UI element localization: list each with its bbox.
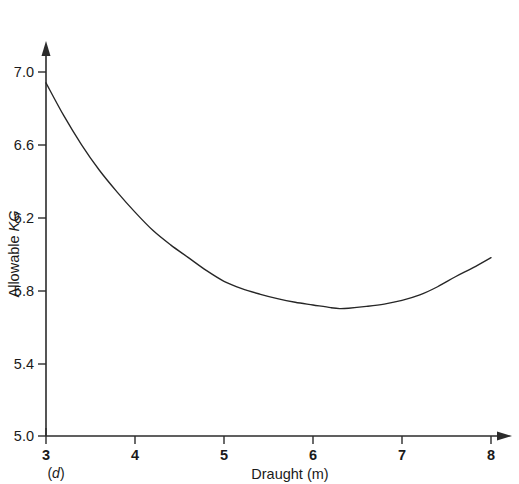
y-tick-label: 5.4 (14, 356, 34, 372)
y-axis-title-prefix: Allowable (6, 231, 22, 297)
x-axis-title: Draught (m) (251, 466, 328, 482)
chart-background (0, 0, 519, 484)
y-tick-label: 5.0 (14, 428, 34, 444)
allowable-kg-vs-draught-chart: 7.0 6.6 6.2 5.8 5.4 5.0 3 4 5 6 7 8 Drau… (0, 0, 519, 484)
y-axis-title-variable: KG (6, 210, 22, 231)
x-tick-label: 3 (42, 447, 50, 463)
panel-caption: (d) (47, 465, 64, 481)
x-tick-label: 6 (309, 447, 317, 463)
x-tick-label: 4 (131, 447, 139, 463)
x-tick-label: 5 (220, 447, 228, 463)
y-axis-title: Allowable KG (6, 210, 22, 297)
x-tick-label: 7 (398, 447, 406, 463)
y-tick-label: 6.6 (14, 137, 34, 153)
y-tick-label: 7.0 (14, 64, 34, 80)
x-tick-label: 8 (487, 447, 495, 463)
panel-caption-close: ) (60, 465, 65, 481)
